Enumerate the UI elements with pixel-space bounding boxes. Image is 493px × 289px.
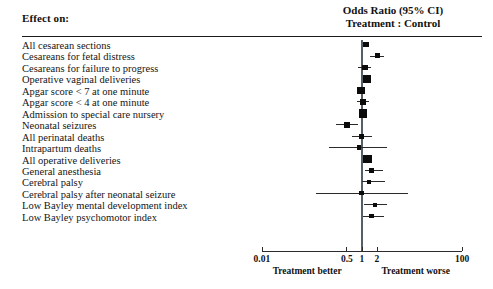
- x-axis-tick-label: 2: [375, 254, 380, 264]
- x-axis-tick-label: 100: [455, 254, 469, 264]
- reference-line: [361, 40, 362, 251]
- row-label: Cerebral palsy: [22, 177, 272, 188]
- odds-ratio-marker: [359, 134, 364, 139]
- effect-column-header: Effect on:: [22, 12, 69, 24]
- row-label: Operative vaginal deliveries: [22, 74, 272, 85]
- row-label: Apgar score < 4 at one minute: [22, 97, 272, 108]
- row-label: All cesarean sections: [22, 40, 272, 51]
- row-label: Admission to special care nursery: [22, 109, 272, 120]
- x-axis-line: [262, 251, 462, 252]
- row-label: General anesthesia: [22, 166, 272, 177]
- row-label: Intrapartum deaths: [22, 143, 272, 154]
- row-label: Apgar score < 7 at one minute: [22, 86, 272, 97]
- odds-ratio-header-line2: Treatment : Control: [300, 17, 486, 30]
- row-label: Cesareans for failure to progress: [22, 63, 272, 74]
- forest-plot: Effect on: Odds Ratio (95% CI) Treatment…: [0, 0, 493, 289]
- odds-ratio-marker: [359, 109, 368, 118]
- odds-ratio-marker: [357, 145, 361, 149]
- x-axis-tick: [262, 247, 263, 251]
- odds-ratio-marker: [344, 122, 350, 128]
- odds-ratio-marker: [359, 191, 363, 195]
- confidence-interval-bar: [362, 181, 385, 182]
- x-axis-tick-label: 0.01: [254, 254, 271, 264]
- row-label-list: All cesarean sectionsCesareans for fetal…: [22, 40, 272, 223]
- odds-ratio-marker: [375, 53, 380, 58]
- row-label: Low Bayley psychomotor index: [22, 212, 272, 223]
- odds-ratio-marker: [362, 65, 368, 71]
- x-axis-tick: [462, 247, 463, 251]
- odds-ratio-marker: [363, 155, 372, 164]
- x-axis-tick-label: 0.5: [341, 254, 353, 264]
- odds-ratio-header-line1: Odds Ratio (95% CI): [300, 4, 486, 17]
- row-label: Cerebral palsy after neonatal seizure: [22, 189, 272, 200]
- header-divider-rule: [22, 36, 482, 37]
- odds-ratio-marker: [363, 42, 369, 48]
- x-axis-tick: [346, 247, 347, 251]
- odds-ratio-marker: [363, 75, 371, 83]
- odds-ratio-marker: [369, 168, 374, 173]
- x-axis-tick-label: 1: [360, 254, 365, 264]
- confidence-interval-bar: [363, 216, 384, 217]
- odds-ratio-marker: [373, 203, 377, 207]
- x-axis-tick: [377, 247, 378, 251]
- odds-ratio-marker: [369, 214, 373, 218]
- row-label: All operative deliveries: [22, 155, 272, 166]
- odds-ratio-marker: [357, 87, 364, 94]
- row-label: Neonatal seizures: [22, 120, 272, 131]
- odds-ratio-column-header: Odds Ratio (95% CI) Treatment : Control: [300, 4, 486, 29]
- odds-ratio-marker: [360, 99, 366, 105]
- axis-note-left: Treatment better: [273, 266, 342, 276]
- row-label: Low Bayley mental development index: [22, 200, 272, 211]
- row-label: Cesareans for fetal distress: [22, 51, 272, 62]
- row-label: All perinatal deaths: [22, 132, 272, 143]
- odds-ratio-marker: [367, 180, 371, 184]
- x-axis-tick: [362, 247, 363, 251]
- axis-note-right: Treatment worse: [381, 266, 450, 276]
